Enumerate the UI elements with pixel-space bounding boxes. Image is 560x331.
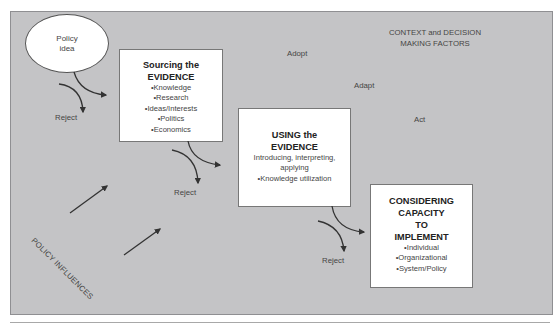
stage-using-evidence: USING the EVIDENCE Introducing, interpre… <box>238 108 351 207</box>
stage-title: TO <box>371 219 472 231</box>
stage-items: Knowledge utilization <box>239 174 350 184</box>
stage-title: USING the <box>239 129 350 141</box>
stage-title: IMPLEMENT <box>371 231 472 243</box>
bottom-rule <box>10 322 550 323</box>
reject-label-3: Reject <box>322 256 344 265</box>
reject-label-2: Reject <box>174 188 196 197</box>
reject-label-1: Reject <box>55 113 77 122</box>
stage-title: EVIDENCE <box>120 71 222 83</box>
stage-description: applying <box>239 163 350 173</box>
stage-description: Introducing, interpreting, <box>239 153 350 163</box>
outcome-adapt: Adapt <box>354 81 374 90</box>
stage-items: Knowledge Research Ideas/Interests Polit… <box>120 83 222 135</box>
stage-item: System/Policy <box>371 264 472 274</box>
context-label: CONTEXT and DECISION MAKING FACTORS <box>380 27 490 49</box>
stage-item: Research <box>120 93 222 103</box>
outcome-act: Act <box>414 115 425 124</box>
stage-item: Organizational <box>371 253 472 263</box>
stage-item: Ideas/Interests <box>120 104 222 114</box>
stage-title: EVIDENCE <box>239 141 350 153</box>
stage-item: Knowledge utilization <box>239 174 350 184</box>
policy-idea-line2: idea <box>47 44 87 54</box>
policy-idea-line1: Policy <box>47 34 87 44</box>
stage-item: Knowledge <box>120 83 222 93</box>
stage-considering-capacity: CONSIDERING CAPACITY TO IMPLEMENT Indivi… <box>370 184 473 288</box>
diagram-canvas: CONTEXT and DECISION MAKING FACTORS Poli… <box>0 0 560 331</box>
stage-item: Politics <box>120 114 222 124</box>
stage-sourcing-evidence: Sourcing the EVIDENCE Knowledge Research… <box>119 49 223 142</box>
stage-title: CAPACITY <box>371 207 472 219</box>
stage-title: Sourcing the <box>120 59 222 71</box>
outcome-adopt: Adopt <box>287 49 307 58</box>
stage-items: Individual Organizational System/Policy <box>371 243 472 274</box>
policy-idea-node: Policy idea <box>25 14 109 73</box>
stage-title: CONSIDERING <box>371 195 472 207</box>
stage-item: Economics <box>120 125 222 135</box>
stage-item: Individual <box>371 243 472 253</box>
